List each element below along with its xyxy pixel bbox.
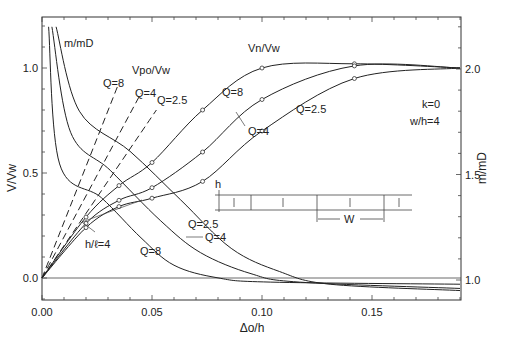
y-tick-label: 1.0 <box>23 62 38 74</box>
inset-h-label: h <box>215 178 221 190</box>
vpo-q25-label: Q=2.5 <box>157 94 187 106</box>
param-wh: w/h=4 <box>409 115 440 127</box>
data-point-marker <box>260 66 264 70</box>
axis-ticks <box>42 17 461 300</box>
y-right-tick-label: 2.0 <box>465 63 480 75</box>
data-point-marker <box>260 98 264 102</box>
mmd-q25-label: Q=2.5 <box>188 218 218 230</box>
data-point-marker <box>84 215 88 219</box>
x-tick-label: 0.00 <box>31 306 52 318</box>
y-axis-label: V/Vw <box>5 164 19 192</box>
y-tick-label: 0.5 <box>23 167 38 179</box>
y-tick-labels: 0.0 0.5 1.0 <box>23 62 38 284</box>
curve-vpo-vw-q-4 <box>42 93 141 278</box>
y-right-axis-label: m/mD <box>475 152 489 184</box>
chart: 0.00 0.05 0.10 0.15 0.0 0.5 1.0 1.0 1.5 … <box>0 0 507 338</box>
vpo-label: Vpo/Vw <box>132 64 170 76</box>
vn-q4-label: Q=4 <box>248 125 269 137</box>
annotations: m/mD Vpo/Vw Vn/Vw k=0 w/h=4 h/ℓ=4 Q=8 Q=… <box>64 37 440 257</box>
y-tick-label: 0.0 <box>23 272 38 284</box>
curve-m-md-q-2-5 <box>56 27 460 291</box>
data-point-marker <box>352 77 356 81</box>
inset-schematic <box>215 190 412 222</box>
data-point-marker <box>201 150 205 154</box>
mmd-label: m/mD <box>64 37 93 49</box>
hl-label: h/ℓ=4 <box>85 238 110 250</box>
data-point-marker <box>117 198 121 202</box>
plot-frame <box>42 17 461 300</box>
mmd-q4-label: Q=4 <box>205 231 226 243</box>
x-tick-label: 0.15 <box>361 306 382 318</box>
data-point-marker <box>201 179 205 183</box>
y-right-tick-label: 1.0 <box>465 274 480 286</box>
data-point-marker <box>150 186 154 190</box>
vpo-q4-label: Q=4 <box>135 87 156 99</box>
x-tick-label: 0.05 <box>141 306 162 318</box>
vn-q8-label: Q=8 <box>222 86 243 98</box>
x-tick-label: 0.10 <box>251 306 272 318</box>
data-point-marker <box>201 108 205 112</box>
x-tick-labels: 0.00 0.05 0.10 0.15 <box>31 306 382 318</box>
x-axis-label: Δo/h <box>240 321 265 335</box>
data-point-marker <box>117 184 121 188</box>
mmd-q8-label: Q=8 <box>140 245 161 257</box>
data-point-marker <box>352 64 356 68</box>
param-k: k=0 <box>422 98 440 110</box>
vn-q25-label: Q=2.5 <box>296 103 326 115</box>
data-point-marker <box>150 196 154 200</box>
inset-w-label: W <box>344 213 355 225</box>
leader-lines <box>82 112 245 237</box>
vpo-q8-label: Q=8 <box>103 77 124 89</box>
data-point-marker <box>150 161 154 165</box>
vn-label: Vn/Vw <box>248 42 280 54</box>
curves <box>42 27 460 291</box>
curve-m-md-q-4 <box>52 27 460 289</box>
